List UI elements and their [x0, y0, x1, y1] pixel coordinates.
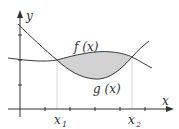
svg-text:1: 1 — [62, 120, 67, 129]
x2-label: x 2 — [128, 113, 141, 129]
x-axis-label: x — [162, 94, 169, 108]
area-between-curves-diagram: y x f (x) g (x) x 1 x 2 — [0, 0, 179, 129]
g-label: g (x) — [93, 82, 121, 96]
y-axis-arrow-icon — [17, 10, 23, 18]
x1-label: x 1 — [54, 113, 67, 129]
f-label: f (x) — [73, 40, 99, 54]
svg-text:x: x — [128, 113, 135, 127]
svg-text:2: 2 — [135, 120, 141, 129]
shaded-area — [57, 52, 132, 80]
y-axis-label: y — [25, 9, 33, 23]
svg-text:x: x — [54, 113, 61, 127]
